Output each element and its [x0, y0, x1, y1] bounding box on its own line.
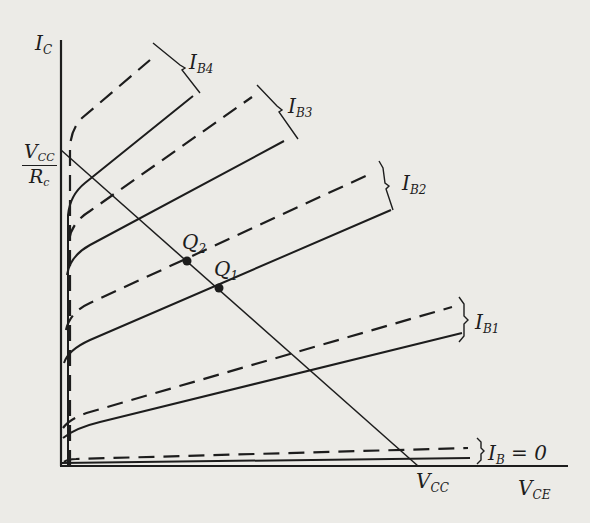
- label-ib1: IB1: [475, 312, 499, 335]
- brace-ib0: [477, 438, 484, 464]
- curve-ib1-dashed: [63, 307, 452, 428]
- brace-ib2: [379, 161, 393, 210]
- label-ib2: IB2: [402, 173, 426, 196]
- label-ib0: IB = 0: [488, 443, 547, 466]
- curve-ib3-dashed: [69, 97, 252, 240]
- curve-ib1-solid: [63, 333, 462, 438]
- label-ib4: IB4: [189, 52, 213, 75]
- vcc-x-intercept-label: VCC: [416, 471, 449, 494]
- vcc-over-rc-label: VCC Rc: [22, 141, 57, 189]
- x-axis-label: VCE: [518, 478, 550, 501]
- curve-ib3-solid: [67, 141, 284, 275]
- diagram-canvas: IC VCE VCC VCC Rc IB4 IB3 IB2 IB1 IB = 0…: [0, 0, 590, 523]
- label-q2: Q2: [182, 232, 206, 255]
- q1-point: [215, 284, 224, 293]
- y-axis-label: IC: [35, 33, 52, 56]
- q2-point: [183, 257, 192, 266]
- label-ib3: IB3: [288, 96, 312, 119]
- brace-ib1: [459, 297, 468, 342]
- label-q1: Q1: [214, 259, 238, 282]
